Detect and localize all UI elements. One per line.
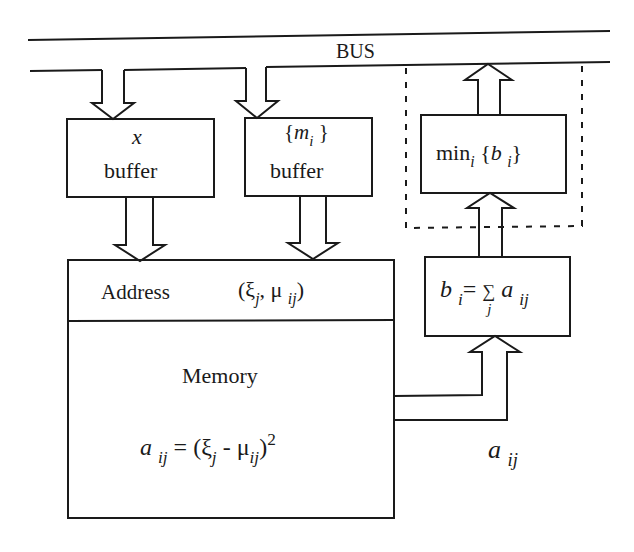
arrow-sum-to-min <box>467 193 514 257</box>
m-buffer-var: {mi } <box>284 120 329 150</box>
arrow-min-to-bus <box>465 64 512 115</box>
bus-bottom-line <box>30 70 102 71</box>
x-buffer-label: buffer <box>104 158 157 184</box>
memory-title: Memory <box>182 363 258 389</box>
address-expression: (ξj, μ ij) <box>238 277 304 308</box>
min-expression: mini {b i} <box>436 140 522 171</box>
bus-label: BUS <box>336 40 375 63</box>
arrow-bus-to-m-buffer <box>236 67 278 118</box>
sum-expression: b i= ∑j a ij <box>440 276 529 310</box>
arrow-memory-to-sum <box>394 336 520 420</box>
arrow-x-buffer-to-memory <box>115 197 165 261</box>
bus-top-line <box>28 31 610 40</box>
x-buffer-var: x <box>132 124 142 150</box>
m-buffer-label: buffer <box>270 158 323 184</box>
arrow-m-buffer-to-memory <box>288 196 338 259</box>
diagram-lines <box>0 0 634 552</box>
address-label: Address <box>101 280 170 305</box>
output-aij-label: a ij <box>488 435 518 471</box>
address-divider <box>68 320 394 321</box>
memory-formula: a ij = (ξj - μij)2 <box>140 430 276 468</box>
arrow-bus-to-x-buffer <box>92 70 134 119</box>
